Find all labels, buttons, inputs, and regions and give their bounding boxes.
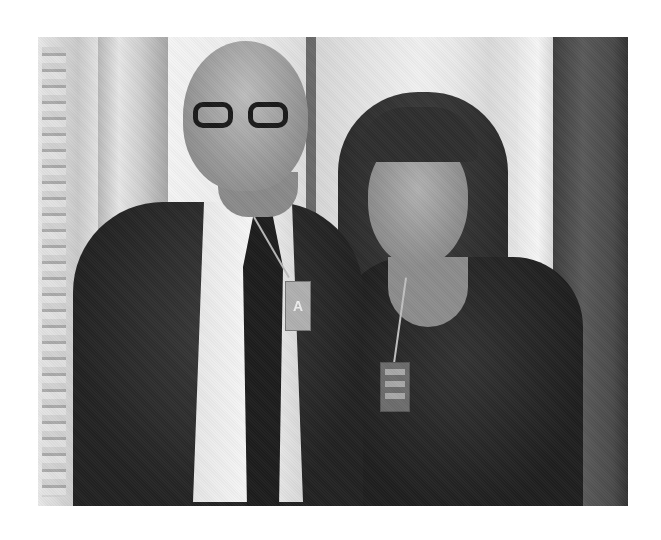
photograph: A <box>38 37 628 506</box>
film-grain <box>38 37 628 506</box>
